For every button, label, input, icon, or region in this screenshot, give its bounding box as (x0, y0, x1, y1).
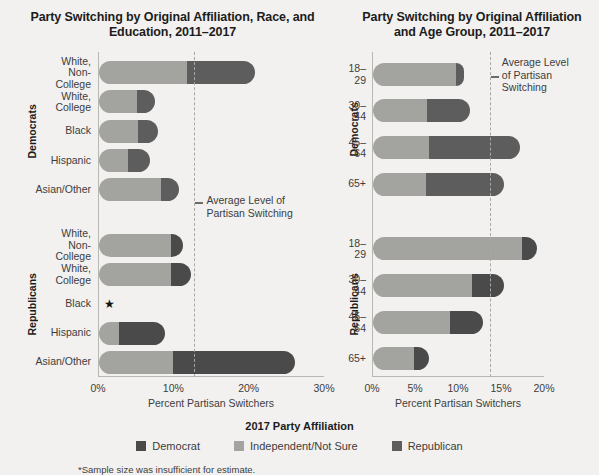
bar-segment-independent (373, 311, 450, 334)
x-axis-tick-label: 20% (533, 382, 554, 394)
bar-segment-republican (426, 173, 503, 196)
y-axis-label: Hispanic (51, 327, 91, 339)
bar-segment-independent (99, 61, 187, 84)
bar-segment-independent (99, 322, 119, 345)
bar-segment-republican (187, 61, 255, 84)
y-axis-label: Black (65, 126, 91, 138)
average-annotation-dash-right (491, 76, 499, 78)
bar-segment-independent (373, 99, 427, 122)
average-annotation-dash-left (195, 202, 203, 204)
bar (99, 178, 179, 201)
x-axis-tick-label: 10% (447, 382, 468, 394)
legend-label: Independent/Not Sure (250, 440, 358, 452)
bar-segment-democrat (173, 351, 295, 374)
bar-segment-independent (373, 63, 456, 86)
y-axis-label: White, Non-College (55, 228, 91, 263)
bar-segment-republican (427, 99, 470, 122)
y-axis-label: White, Non-College (55, 55, 91, 90)
x-axis-tick-label: 10% (163, 382, 184, 394)
bar (99, 149, 150, 172)
bar (373, 173, 504, 196)
bar-segment-democrat (414, 347, 429, 370)
plot-area-right: 18–2930–4445–6465+18–2930–4445–6465+0%5%… (372, 52, 544, 377)
bar (373, 274, 504, 297)
y-axis-label: Hispanic (51, 155, 91, 167)
legend-label: Republican (408, 440, 463, 452)
legend-label: Democrat (152, 440, 200, 452)
x-axis-tick-label: 0% (90, 382, 105, 394)
chart-panel-left: Party Switching by Original Affiliation,… (0, 0, 345, 420)
average-level-line (490, 52, 491, 377)
bar-segment-independent (373, 136, 429, 159)
legend-item-democrat: Democrat (136, 440, 200, 452)
y-axis-label: 30–44 (348, 99, 366, 122)
bar-segment-independent (99, 149, 128, 172)
bar-segment-democrat (171, 234, 183, 257)
bar-segment-democrat (171, 263, 191, 286)
insufficient-sample-star-icon: ★ (104, 297, 115, 311)
bar-segment-independent (373, 237, 522, 260)
y-axis-label: White, College (55, 263, 91, 286)
y-axis-label: 45–64 (348, 311, 366, 334)
x-axis-tick-label: 0% (364, 382, 379, 394)
bar-segment-independent (99, 178, 161, 201)
chart-title-left: Party Switching by Original Affiliation,… (0, 10, 345, 40)
bar-segment-independent (99, 90, 137, 113)
bar (99, 90, 155, 113)
bar-segment-republican (128, 149, 150, 172)
bar (99, 120, 158, 143)
x-axis-line-right (372, 376, 544, 377)
legend-title: 2017 Party Affiliation (0, 420, 599, 432)
bar (373, 136, 520, 159)
average-level-line (194, 52, 195, 377)
average-annotation-left: Average Level of Partisan Switching (206, 194, 292, 219)
y-axis-label: 30–44 (348, 274, 366, 297)
x-axis-tick-label: 20% (238, 382, 259, 394)
legend: 2017 Party Affiliation DemocratIndepende… (0, 420, 599, 472)
legend-items: DemocratIndependent/Not SureRepublican (0, 440, 599, 452)
bar (99, 351, 295, 374)
y-axis-label: 45–64 (348, 136, 366, 159)
chart-title-right: Party Switching by Original Affiliation … (345, 10, 599, 40)
bar (99, 234, 183, 257)
x-axis-label: Percent Partisan Switchers (395, 397, 521, 409)
bar-segment-independent (99, 234, 171, 257)
bar (99, 263, 191, 286)
bar (373, 347, 429, 370)
y-axis-label: 18–29 (348, 63, 366, 86)
bar-segment-independent (373, 274, 472, 297)
y-axis-label: Black (65, 298, 91, 310)
bar (99, 61, 255, 84)
legend-swatch-democrat (136, 441, 146, 451)
bar-segment-republican (137, 90, 155, 113)
bar-segment-independent (373, 173, 426, 196)
average-annotation-right: Average Level of Partisan Switching (502, 56, 569, 94)
x-axis-tick-label: 30% (313, 382, 334, 394)
bar-segment-democrat (450, 311, 484, 334)
bar-segment-independent (373, 347, 414, 370)
x-axis-tick-label: 5% (407, 382, 422, 394)
x-axis-line-left (98, 376, 324, 377)
y-axis-label: White, College (55, 90, 91, 113)
bar-segment-republican (138, 120, 158, 143)
legend-swatch-independent (234, 441, 244, 451)
bar-segment-democrat (119, 322, 164, 345)
bar (373, 63, 464, 86)
bar-segment-independent (99, 263, 171, 286)
y-axis-label: Asian/Other (36, 184, 91, 196)
legend-item-independent: Independent/Not Sure (234, 440, 358, 452)
footnote: *Sample size was insufficient for estima… (78, 464, 255, 475)
chart-panel-right: Party Switching by Original Affiliation … (345, 0, 599, 420)
y-axis-label: Asian/Other (36, 357, 91, 369)
y-axis-label: 65+ (348, 353, 366, 365)
y-axis-label: 18–29 (348, 237, 366, 260)
legend-item-republican: Republican (392, 440, 463, 452)
x-axis-tick-label: 15% (490, 382, 511, 394)
bar (99, 322, 165, 345)
y-axis-label: 65+ (348, 178, 366, 190)
legend-swatch-republican (392, 441, 402, 451)
bar-segment-independent (99, 120, 138, 143)
bar-segment-republican (161, 178, 179, 201)
bar (373, 311, 483, 334)
bar-segment-democrat (522, 237, 537, 260)
